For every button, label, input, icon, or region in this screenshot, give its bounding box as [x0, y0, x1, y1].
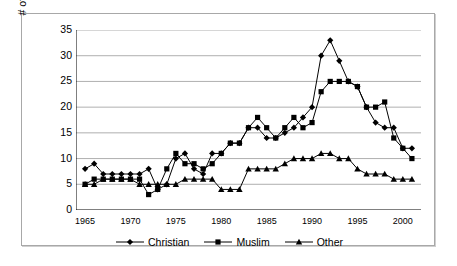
y-tick-label: 0 [46, 203, 72, 215]
y-tick-label: 25 [46, 74, 72, 86]
line-chart-svg [76, 30, 421, 210]
y-axis-tick-labels: 05101520253035 [45, 30, 72, 210]
x-tick-label: 1975 [166, 216, 186, 226]
y-tick-label: 20 [46, 100, 72, 112]
x-tick-label: 1990 [302, 216, 322, 226]
x-tick-label: 1985 [257, 216, 277, 226]
x-tick-label: 2000 [393, 216, 413, 226]
legend-label: Muslim [236, 236, 269, 248]
y-axis-title-label: # of State Failures [16, 0, 28, 48]
y-tick-label: 35 [46, 23, 72, 35]
square-marker-icon [203, 236, 233, 248]
legend-label: Other [317, 236, 343, 248]
x-tick-label: 1995 [347, 216, 367, 226]
x-tick-label: 1970 [120, 216, 140, 226]
x-tick-label: 1980 [211, 216, 231, 226]
y-tick-label: 10 [46, 152, 72, 164]
y-tick-label: 5 [46, 177, 72, 189]
series-other [82, 150, 415, 192]
triangle-marker-icon [284, 236, 314, 248]
y-tick-label: 15 [46, 126, 72, 138]
chart-screenshot: # of State Failures 05101520253035 19651… [0, 0, 457, 266]
legend-item-christian[interactable]: Christian [115, 236, 189, 248]
plot-area [76, 30, 421, 210]
x-axis-tick-labels: 19651970197519801985199019952000 [76, 214, 421, 228]
y-tick-label: 30 [46, 49, 72, 61]
legend-label: Christian [148, 236, 189, 248]
x-tick-label: 1965 [75, 216, 95, 226]
chart-frame: # of State Failures 05101520253035 19651… [21, 13, 435, 246]
chart-legend: ChristianMuslimOther [22, 236, 436, 248]
y-axis-title: # of State Failures [16, 0, 28, 48]
legend-item-muslim[interactable]: Muslim [203, 236, 269, 248]
legend-item-other[interactable]: Other [284, 236, 343, 248]
diamond-marker-icon [115, 236, 145, 248]
